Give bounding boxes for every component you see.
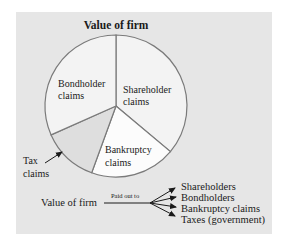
label-shareholder-line1: Shareholder <box>123 84 172 95</box>
flow-target-bondholders: Bondholders <box>181 192 235 203</box>
label-shareholder-line2: claims <box>123 96 149 107</box>
tax-pointer-arrow <box>45 152 62 163</box>
label-bondholder-line1: Bondholder <box>58 78 106 89</box>
label-bankruptcy-line1: Bankruptcy <box>105 144 152 155</box>
pie-chart <box>45 35 187 177</box>
flow-target-shareholders: Shareholders <box>181 181 236 192</box>
value-of-firm-diagram: Value of firm Bondholder claims Sharehol… <box>0 0 283 244</box>
arrow-to-bondholders <box>150 197 176 203</box>
arrow-to-shareholders <box>150 188 175 203</box>
flow-arrows <box>150 188 176 216</box>
label-tax-line1: Tax <box>23 155 38 166</box>
flow-target-taxes: Taxes (government) <box>181 214 266 226</box>
flow-target-bankruptcy: Bankruptcy claims <box>181 203 260 214</box>
flow-edge-label: Paid out to <box>111 192 139 199</box>
chart-title: Value of firm <box>84 19 149 31</box>
label-bondholder-line2: claims <box>58 90 84 101</box>
label-tax-line2: claims <box>23 168 49 179</box>
flow-source-label: Value of firm <box>41 197 97 208</box>
label-bankruptcy-line2: claims <box>105 157 131 168</box>
